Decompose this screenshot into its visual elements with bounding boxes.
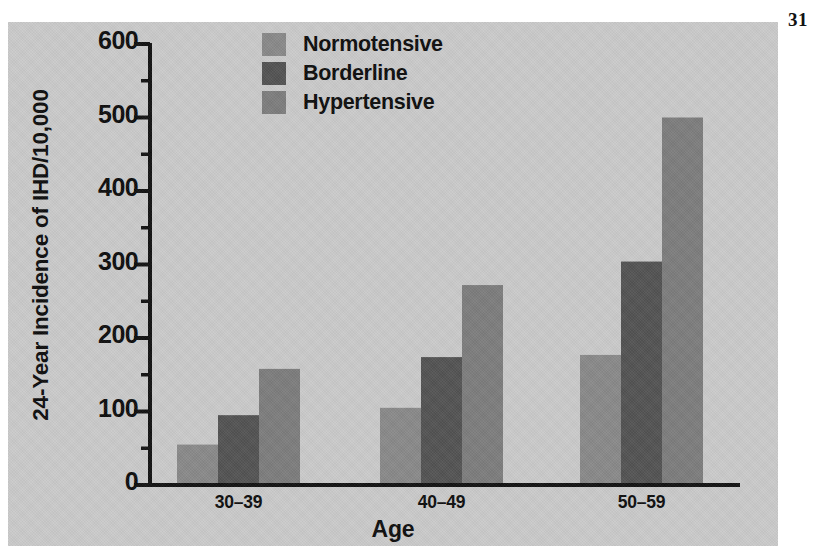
y-tick-label-600: 600 [74,26,138,55]
bar-borderline-30-39 [218,415,259,485]
bar-normotensive-50-59 [580,355,621,485]
x-axis-title: Age [8,516,778,543]
legend-swatch-normotensive [262,33,286,56]
bar-normotensive-30-39 [177,445,218,485]
y-tick-label-200: 200 [74,320,138,349]
y-tick-label-0: 0 [74,467,138,496]
legend-item-normotensive: Normotensive [262,30,443,59]
y-tick-label-100: 100 [74,394,138,423]
bar-hypertensive-50-59 [662,118,703,486]
y-tick-label-400: 400 [74,173,138,202]
x-tick-label-30-39: 30–39 [159,492,319,513]
bar-group [177,369,300,485]
page-number: 31 [788,9,808,31]
figure-panel: 24-Year Incidence of IHD/10,000 60050040… [8,22,778,546]
bar-normotensive-40-49 [380,408,421,485]
bar-group [580,118,703,486]
x-tick-label-40-49: 40–49 [362,492,522,513]
bar-hypertensive-40-49 [462,285,503,485]
x-tick-label-50-59: 50–59 [562,492,722,513]
legend-item-borderline: Borderline [262,59,443,88]
legend-label-borderline: Borderline [303,61,408,86]
bar-borderline-50-59 [621,262,662,485]
legend-label-hypertensive: Hypertensive [303,90,434,115]
legend-swatch-hypertensive [262,91,286,114]
bar-hypertensive-30-39 [259,369,300,485]
legend-item-hypertensive: Hypertensive [262,88,443,117]
chart-legend: NormotensiveBorderlineHypertensive [262,30,443,117]
legend-label-normotensive: Normotensive [303,32,443,57]
y-tick-label-300: 300 [74,247,138,276]
legend-swatch-borderline [262,62,286,85]
bar-group [380,285,503,485]
y-tick-label-group: 6005004003002001000 [74,22,138,546]
y-tick-label-500: 500 [74,100,138,129]
bar-borderline-40-49 [421,357,462,485]
